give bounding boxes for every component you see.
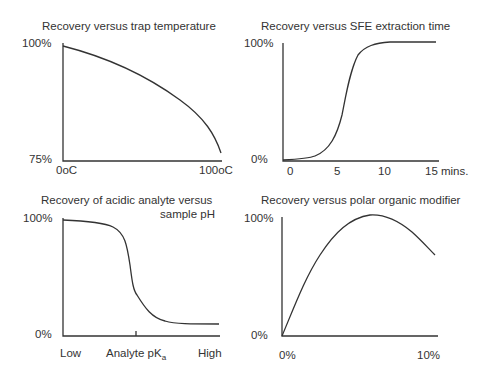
chart2-x-tick-15: 15 mins. bbox=[425, 165, 468, 177]
chart2-x-tick-10: 10 bbox=[378, 165, 391, 177]
chart3-title-line2: sample pH bbox=[160, 208, 215, 220]
chart1-title: Recovery versus trap temperature bbox=[42, 20, 216, 32]
chart3-x-pka-label: Analyte pKa bbox=[106, 347, 166, 362]
chart2-title: Recovery versus SFE extraction time bbox=[261, 20, 450, 32]
charts-canvas bbox=[0, 0, 490, 377]
chart1-curve bbox=[63, 46, 221, 153]
chart3-axes bbox=[63, 218, 220, 336]
chart3-x-high-label: High bbox=[198, 347, 222, 359]
chart2-y-top-label: 100% bbox=[244, 37, 273, 49]
chart3-x-low-label: Low bbox=[60, 347, 81, 359]
chart2-x-tick-0: 0 bbox=[287, 165, 293, 177]
chart4-y-top-label: 100% bbox=[244, 212, 273, 224]
chart1-y-top-label: 100% bbox=[22, 37, 51, 49]
chart1-axes bbox=[63, 43, 222, 161]
chart3-y-bottom-label: 0% bbox=[35, 328, 52, 340]
chart1-x-left-label: 0oC bbox=[56, 164, 77, 176]
chart3-title-line1: Recovery of acidic analyte versus bbox=[41, 194, 212, 206]
chart4-curve bbox=[282, 215, 435, 336]
chart4-x-left-label: 0% bbox=[279, 349, 296, 361]
chart1-x-right-label: 100oC bbox=[199, 164, 233, 176]
chart2-axes bbox=[283, 43, 439, 161]
chart4-y-bottom-label: 0% bbox=[251, 329, 268, 341]
chart1-y-bottom-label: 75% bbox=[29, 153, 52, 165]
chart4-title: Recovery versus polar organic modifier bbox=[261, 194, 460, 206]
chart2-curve bbox=[283, 42, 436, 160]
chart4-x-right-label: 10% bbox=[417, 349, 440, 361]
chart2-x-tick-5: 5 bbox=[334, 165, 340, 177]
chart3-curve bbox=[63, 220, 219, 324]
chart2-y-bottom-label: 0% bbox=[251, 153, 268, 165]
chart3-y-top-label: 100% bbox=[23, 212, 52, 224]
